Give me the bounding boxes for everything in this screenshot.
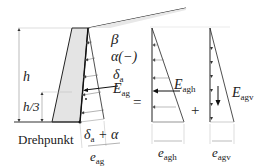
retaining-wall [52,28,88,122]
e-agh-label: eagh [158,146,177,162]
h-arrow-top [18,28,21,31]
agh-triangle-hypotenuse [152,28,184,122]
pressure-triangle-edge [88,28,104,119]
pivot-label: Drehpunkt [18,133,74,146]
E-agh-label: Eagh [174,78,196,94]
h3-label: h/3 [23,100,40,113]
E-agv-arrowhead [216,100,221,106]
e-ag-extension-left [80,124,82,148]
agv-triangle-hypotenuse [210,28,234,122]
E-agh-arrowhead [153,89,159,94]
e-ag-label: eag [90,150,104,166]
h-label: h [23,70,30,84]
E-ag-label: Eag [113,82,130,98]
alpha-label: α(−) [111,50,137,64]
wall-dot-marker [85,98,87,100]
equals-sign: = [133,95,141,110]
beta-label: β [111,32,118,47]
h3-arrow-top [41,92,44,95]
pressure-triangle-base [80,119,104,122]
delta-alpha-label: δa + α [84,128,118,144]
plus-sign: + [191,103,199,118]
e-agv-label: eagv [212,146,231,162]
E-agv-label: Eagv [232,86,254,102]
E-ag-arrowhead [83,88,88,92]
